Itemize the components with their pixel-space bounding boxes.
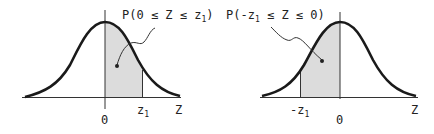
left-bell-curve: [25, 22, 180, 97]
normal-distribution-diagrams: P(0 ≤ Z ≤ z1) 0 z1 Z P(-z1 ≤ Z ≤ 0) 0 -z…: [0, 0, 434, 134]
left-zero-label: 0: [101, 113, 108, 127]
right-probability-label: P(-z1 ≤ Z ≤ 0): [226, 8, 325, 24]
left-leader-dot: [115, 64, 119, 68]
right-leader-dot: [320, 59, 324, 63]
right-minus-z1-label: -z1: [290, 103, 309, 119]
right-zero-label: 0: [336, 113, 343, 127]
right-plot: P(-z1 ≤ Z ≤ 0) 0 -z1 Z: [226, 8, 418, 127]
left-z1-label: z1: [137, 103, 149, 119]
right-z-axis-label: Z: [411, 103, 418, 117]
left-z-axis-label: Z: [175, 103, 182, 117]
left-plot: P(0 ≤ Z ≤ z1) 0 z1 Z: [22, 8, 214, 127]
left-probability-label: P(0 ≤ Z ≤ z1): [122, 8, 214, 24]
